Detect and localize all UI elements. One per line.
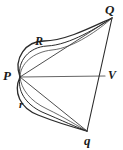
- vertex-label-p: P: [3, 69, 11, 82]
- figure-canvas: Q R P V r q: [0, 0, 123, 150]
- geometry-diagram: [0, 0, 123, 150]
- edge-p-v: [20, 76, 105, 77]
- vertex-label-v: V: [108, 69, 116, 81]
- vertex-label-q-upper: Q: [105, 3, 114, 16]
- vertex-label-r-lower: r: [19, 99, 23, 110]
- vertex-label-r-upper: R: [35, 35, 43, 47]
- vertex-label-q-lower: q: [84, 134, 91, 147]
